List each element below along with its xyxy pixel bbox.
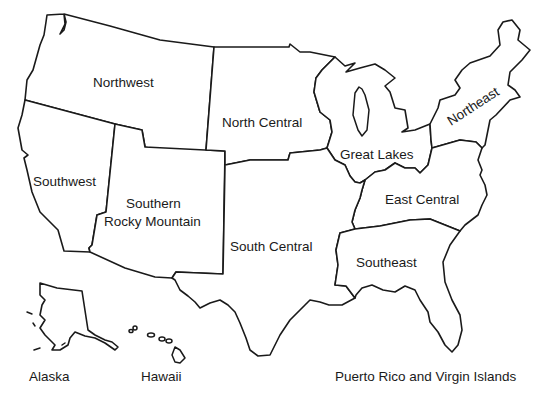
label-southern-rocky-mountain-line1: Southern	[126, 196, 181, 211]
us-regions-map: Northwest North Central Great Lakes Nort…	[0, 0, 542, 394]
label-southwest: Southwest	[33, 174, 96, 189]
label-hawaii: Hawaii	[141, 369, 182, 384]
label-east-central: East Central	[385, 192, 459, 207]
label-southern-rocky-mountain-line2: Rocky Mountain	[104, 214, 201, 229]
label-northwest: Northwest	[93, 75, 154, 90]
label-southeast: Southeast	[356, 255, 417, 270]
inset-alaska[interactable]	[40, 283, 118, 350]
label-south-central: South Central	[230, 239, 313, 254]
label-north-central: North Central	[222, 115, 302, 130]
region-southeast[interactable]	[335, 219, 462, 352]
label-puerto-rico: Puerto Rico and Virgin Islands	[335, 369, 517, 384]
label-great-lakes: Great Lakes	[340, 147, 414, 162]
region-northeast[interactable]	[430, 20, 530, 148]
label-alaska: Alaska	[29, 369, 70, 384]
inset-hawaii[interactable]	[129, 326, 185, 363]
region-north-central[interactable]	[206, 44, 335, 165]
